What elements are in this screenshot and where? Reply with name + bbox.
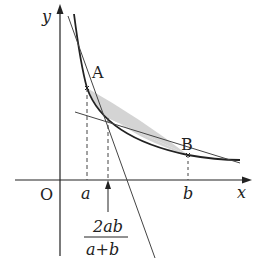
x-tick-a-label: a bbox=[81, 184, 91, 203]
x-axis-label: x bbox=[237, 183, 246, 202]
annotation-arrow-icon bbox=[105, 180, 111, 189]
point-b-label: B bbox=[181, 135, 193, 154]
fraction-numerator: 2ab bbox=[92, 217, 123, 236]
shaded-region bbox=[87, 88, 188, 155]
diagram-canvas: y x O A B a b 2ab a+b bbox=[0, 0, 254, 268]
origin-label: O bbox=[40, 185, 53, 204]
tangent-line-b bbox=[75, 112, 240, 163]
fraction-denominator: a+b bbox=[86, 240, 119, 259]
point-a-label: A bbox=[91, 63, 104, 82]
y-axis-label: y bbox=[41, 7, 52, 26]
y-axis-arrow-icon bbox=[57, 4, 64, 14]
x-tick-b-label: b bbox=[183, 184, 193, 203]
